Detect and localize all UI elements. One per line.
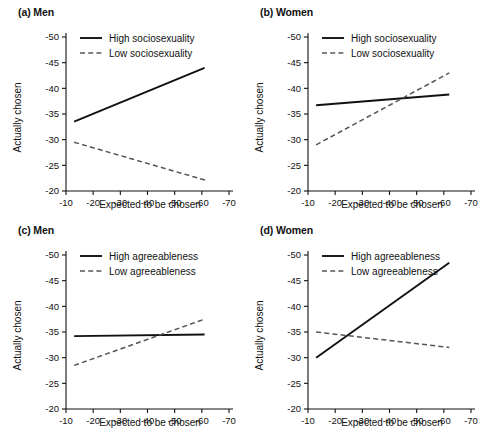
- series-line-high: [316, 263, 449, 358]
- panel-b: (b) Women -50-45-40-35-30-25-20-10-20-30…: [242, 0, 484, 218]
- panel-b-plot: -50-45-40-35-30-25-20-10-20-30-40-50-60-…: [242, 0, 484, 218]
- panel-c-plot: -50-45-40-35-30-25-20-10-20-30-40-50-60-…: [0, 218, 242, 436]
- series-line-high: [74, 335, 204, 337]
- panel-c: (c) Men -50-45-40-35-30-25-20-10-20-30-4…: [0, 218, 242, 436]
- panel-c-ylabel: Actually chosen: [12, 281, 23, 391]
- legend-label: Low sociosexuality: [351, 48, 434, 59]
- panel-d-plot: -50-45-40-35-30-25-20-10-20-30-40-50-60-…: [242, 218, 484, 436]
- panel-a-plot: -50-45-40-35-30-25-20-10-20-30-40-50-60-…: [0, 0, 242, 218]
- panel-b-xlabel: Expected to be chosen: [302, 199, 482, 210]
- legend-label: High sociosexuality: [351, 33, 437, 44]
- y-tick-label: -45: [287, 275, 301, 286]
- y-tick-label: -20: [45, 403, 59, 414]
- y-tick-label: -35: [45, 108, 59, 119]
- series-line-low: [74, 319, 204, 365]
- legend-label: Low sociosexuality: [109, 48, 192, 59]
- panel-a-ylabel: Actually chosen: [12, 63, 23, 173]
- y-tick-label: -30: [287, 134, 301, 145]
- series-line-low: [74, 142, 207, 181]
- y-tick-label: -50: [45, 31, 59, 42]
- series-line-low: [316, 73, 449, 145]
- series-line-low: [316, 332, 449, 347]
- legend-label: High agreeableness: [109, 251, 198, 262]
- panel-a-svg: -50-45-40-35-30-25-20-10-20-30-40-50-60-…: [0, 0, 242, 218]
- panel-c-xlabel: Expected to be chosen: [60, 417, 240, 428]
- panel-d-xlabel: Expected to be chosen: [302, 417, 482, 428]
- y-tick-label: -25: [287, 378, 301, 389]
- y-tick-label: -30: [287, 352, 301, 363]
- y-tick-label: -45: [45, 275, 59, 286]
- y-tick-label: -50: [287, 31, 301, 42]
- y-tick-label: -50: [45, 249, 59, 260]
- panel-c-svg: -50-45-40-35-30-25-20-10-20-30-40-50-60-…: [0, 218, 242, 436]
- panel-a: (a) Men -50-45-40-35-30-25-20-10-20-30-4…: [0, 0, 242, 218]
- y-tick-label: -45: [45, 57, 59, 68]
- series-line-high: [316, 94, 449, 105]
- panel-b-ylabel: Actually chosen: [254, 63, 265, 173]
- y-tick-label: -35: [287, 326, 301, 337]
- legend-label: Low agreeableness: [109, 266, 196, 277]
- y-tick-label: -20: [287, 403, 301, 414]
- y-tick-label: -25: [287, 160, 301, 171]
- legend-label: High sociosexuality: [109, 33, 195, 44]
- figure-panel-grid: (a) Men -50-45-40-35-30-25-20-10-20-30-4…: [0, 0, 484, 437]
- y-tick-label: -30: [45, 134, 59, 145]
- panel-d-ylabel: Actually chosen: [254, 281, 265, 391]
- legend-label: Low agreeableness: [351, 266, 438, 277]
- y-tick-label: -35: [45, 326, 59, 337]
- y-tick-label: -40: [45, 83, 59, 94]
- y-tick-label: -40: [287, 83, 301, 94]
- y-tick-label: -40: [45, 301, 59, 312]
- y-tick-label: -30: [45, 352, 59, 363]
- y-tick-label: -40: [287, 301, 301, 312]
- y-tick-label: -25: [45, 378, 59, 389]
- panel-a-xlabel: Expected to be chosen: [60, 199, 240, 210]
- panel-b-svg: -50-45-40-35-30-25-20-10-20-30-40-50-60-…: [242, 0, 484, 218]
- y-tick-label: -25: [45, 160, 59, 171]
- y-tick-label: -20: [45, 185, 59, 196]
- y-tick-label: -50: [287, 249, 301, 260]
- y-tick-label: -20: [287, 185, 301, 196]
- panel-d: (d) Women -50-45-40-35-30-25-20-10-20-30…: [242, 218, 484, 436]
- series-line-high: [74, 68, 204, 122]
- y-tick-label: -45: [287, 57, 301, 68]
- y-tick-label: -35: [287, 108, 301, 119]
- legend-label: High agreeableness: [351, 251, 440, 262]
- panel-d-svg: -50-45-40-35-30-25-20-10-20-30-40-50-60-…: [242, 218, 484, 436]
